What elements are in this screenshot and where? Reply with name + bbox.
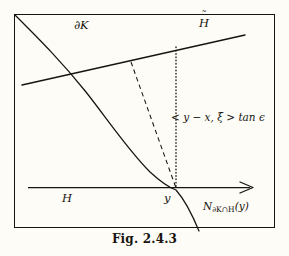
boundary-k-label: ∂K — [74, 20, 89, 32]
normal-cone-subscript: ∂K∩H — [212, 205, 234, 214]
normal-cone-label: N∂K∩H(y) — [203, 201, 249, 214]
point-y-label: y — [164, 193, 171, 205]
figure-canvas — [0, 0, 289, 256]
dashed-segment — [131, 62, 176, 188]
tilde-accent-icon: ˜ — [201, 11, 206, 22]
figure-page: ∂K ˜ H H y < y − x, ξ > tan ϵ N∂K∩H(y) F… — [0, 0, 289, 256]
normal-cone-base: N — [203, 200, 212, 212]
h-tilde-line — [22, 35, 245, 85]
h-tilde-label: ˜ H — [199, 18, 209, 30]
inner-product-label: < y − x, ξ > tan ϵ — [171, 112, 265, 123]
figure-caption: Fig. 2.4.3 — [0, 232, 289, 246]
normal-cone-argument: (y) — [235, 200, 249, 212]
hyperplane-h-label: H — [62, 193, 72, 205]
boundary-of-k-curve — [15, 15, 199, 231]
